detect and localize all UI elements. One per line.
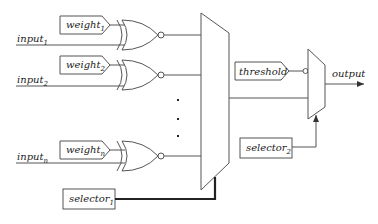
ellipsis-dots: [177, 99, 179, 137]
selector-2-wire: [292, 115, 316, 147]
selector-1-wire: [115, 177, 215, 199]
multiplexer-1: [201, 13, 229, 190]
xnor-gate-2-icon: [117, 60, 164, 90]
gate-row-1: weight1 input1: [16, 16, 201, 50]
multiplexer-2: [308, 49, 325, 119]
gate-row-2: weight2 input2: [16, 56, 201, 90]
gate-row-n: weightn inputn: [16, 141, 201, 171]
output-label: output: [332, 68, 366, 79]
xnor-gate-1-icon: [117, 20, 164, 50]
threshold-label: threshold: [239, 66, 287, 77]
circuit-diagram: weight1 input1 weight2 input2 weightn in…: [0, 0, 378, 224]
xnor-gate-n-icon: [117, 141, 164, 171]
inverter-bubble-icon: [303, 69, 308, 74]
